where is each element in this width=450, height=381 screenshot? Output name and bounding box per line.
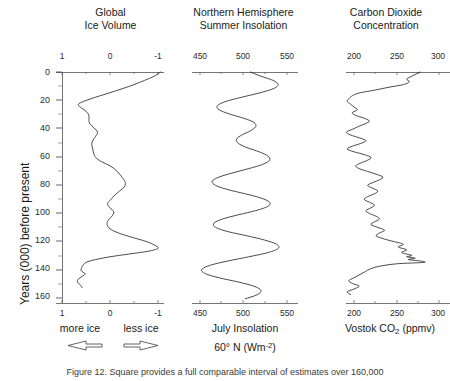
more-ice-arrow xyxy=(68,341,102,350)
paleoclimate-figure: Global Ice Volume Northern Hemisphere Su… xyxy=(0,0,450,381)
co2-x-ticks xyxy=(354,72,439,303)
less-ice-arrow xyxy=(124,341,158,350)
ice-x-ticks xyxy=(62,72,158,303)
insolation-x-ticks xyxy=(200,72,287,303)
ice-volume-curve xyxy=(77,72,160,288)
figure-caption: Figure 12. Square provides a full compar… xyxy=(18,366,432,378)
y-major-ticks xyxy=(56,72,62,298)
plot-canvas xyxy=(0,0,450,381)
insolation-curve xyxy=(201,72,279,299)
co2-curve xyxy=(346,72,425,295)
